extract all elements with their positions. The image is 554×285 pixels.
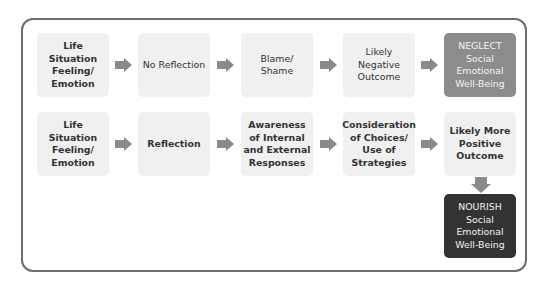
node-no-reflection: No Reflection <box>138 33 210 97</box>
arrow-right-icon <box>320 137 337 151</box>
arrow-right-icon <box>421 58 438 72</box>
node-consideration: Consideration of Choices/ Use of Strateg… <box>343 112 415 176</box>
arrow-right-icon <box>421 137 438 151</box>
arrow-down-icon <box>471 177 491 193</box>
node-reflection: Reflection <box>138 112 210 176</box>
node-life-situation-1: Life Situation Feeling/ Emotion <box>37 33 109 97</box>
node-likely-negative-outcome: Likely Negative Outcome <box>343 33 415 97</box>
node-blame-shame: Blame/ Shame <box>241 33 313 97</box>
arrow-right-icon <box>320 58 337 72</box>
arrow-right-icon <box>115 58 132 72</box>
arrow-right-icon <box>115 137 132 151</box>
node-awareness: Awareness of Internal and External Respo… <box>241 112 313 176</box>
node-nourish: NOURISH Social Emotional Well-Being <box>444 194 516 258</box>
node-likely-positive-outcome: Likely More Positive Outcome <box>444 112 516 176</box>
node-neglect: NEGLECT Social Emotional Well-Being <box>444 33 516 97</box>
arrow-right-icon <box>217 58 234 72</box>
node-life-situation-2: Life Situation Feeling/ Emotion <box>37 112 109 176</box>
arrow-right-icon <box>217 137 234 151</box>
